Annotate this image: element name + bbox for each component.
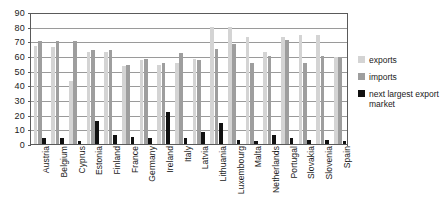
bar-group [246,13,258,144]
y-axis-tick-label: 30 [15,97,25,106]
plot-frame-top [30,13,348,14]
legend-item-next-largest-export-market: next largest export market [358,89,445,109]
bar-imports [215,49,219,144]
bar-next-largest-export-market [60,138,64,144]
bar-exports [299,35,303,144]
square-swatch-icon [358,56,365,63]
x-axis-tick-label: Netherlands [272,146,281,193]
y-axis-tick-label: 70 [15,38,25,47]
bar-next-largest-export-market [325,140,329,144]
x-axis-tick-label: Malta [254,146,263,167]
bar-imports [285,40,289,144]
bar-chart: 0102030405060708090 AustriaBelgiumCyprus… [0,0,445,223]
y-axis-tick-label: 0 [20,141,25,150]
x-axis-tick-label: Slovenia [325,146,334,179]
bar-imports [73,41,77,144]
bar-next-largest-export-market [148,138,152,144]
y-axis-tick-label: 50 [15,67,25,76]
bar-next-largest-export-market [201,132,205,144]
bar-next-largest-export-market [166,112,170,144]
y-axis-tick-label: 80 [15,23,25,32]
bar-group [210,13,222,144]
bar-group [34,13,46,144]
bar-imports [303,63,307,144]
bars-layer [31,13,348,144]
bar-next-largest-export-market [254,141,258,144]
legend-item-imports: imports [358,72,445,82]
bar-next-largest-export-market [343,141,347,144]
bar-group [193,13,205,144]
bar-next-largest-export-market [272,135,276,144]
bar-exports [175,63,179,144]
x-axis-tick-label: Lithuania [219,146,228,181]
bar-imports [250,63,254,144]
y-axis-tick-label: 60 [15,53,25,62]
x-axis-tick-label: Estonia [95,146,104,175]
legend-item-label: next largest export market [369,89,445,109]
bar-exports [263,52,267,144]
chart-legend: exports imports next largest export mark… [358,55,445,116]
bar-group [263,13,275,144]
bar-exports [281,37,285,144]
y-axis-tick-label: 40 [15,82,25,91]
y-axis-tick-label: 10 [15,126,25,135]
x-axis-tick-label: Finland [113,146,122,175]
bar-imports [56,41,60,144]
bar-exports [157,65,161,144]
bar-exports [193,59,197,144]
bar-imports [144,59,148,144]
bar-imports [197,60,201,144]
bar-imports [126,65,130,144]
bar-group [334,13,346,144]
x-axis-tick-label: Ireland [166,146,175,173]
bar-exports [34,46,38,144]
bar-next-largest-export-market [78,141,82,144]
bar-exports [210,27,214,144]
bar-group [228,13,240,144]
y-axis-tick-label: 90 [15,9,25,18]
bar-next-largest-export-market [113,135,117,144]
x-axis-tick-label: Italy [184,146,193,162]
bar-exports [334,57,338,144]
legend-item-exports: exports [358,55,445,65]
x-axis-tick-label: France [131,146,140,173]
bar-exports [69,81,73,144]
bar-group [87,13,99,144]
plot-frame-right [347,13,348,146]
bar-exports [228,27,232,144]
bar-imports [109,50,113,144]
bar-exports [87,52,91,144]
bar-next-largest-export-market [42,138,46,144]
bar-imports [162,63,166,144]
x-axis-tick-label: Luxembourg [237,146,246,194]
x-axis-tick-label: Latvia [201,146,210,169]
legend-item-label: imports [369,72,397,82]
x-axis-tick-label: Spain [343,146,352,168]
bar-imports [91,50,95,144]
y-axis-tick-label: 20 [15,111,25,120]
bar-group [299,13,311,144]
square-swatch-icon [358,90,365,97]
bar-next-largest-export-market [184,138,188,144]
bar-group [140,13,152,144]
bar-imports [321,56,325,144]
x-axis-tick-label: Slovakia [307,146,316,179]
x-axis-tick-label: Austria [42,146,51,173]
bar-imports [38,41,42,144]
x-axis-tick-label: Belgium [60,146,69,177]
x-axis-tick-labels: AustriaBelgiumCyprusEstoniaFinlandFrance… [30,146,348,222]
bar-group [175,13,187,144]
bar-next-largest-export-market [219,123,223,144]
bar-next-largest-export-market [95,121,99,144]
bar-imports [232,44,236,144]
bar-exports [316,35,320,144]
bar-group [157,13,169,144]
bar-group [122,13,134,144]
x-axis-tick-label: Cyprus [78,146,87,174]
bar-exports [122,66,126,144]
bar-imports [179,53,183,144]
x-axis-tick-label: Portugal [290,146,299,178]
bar-group [104,13,116,144]
x-axis-tick-label: Germany [148,146,157,182]
bar-exports [246,37,250,144]
